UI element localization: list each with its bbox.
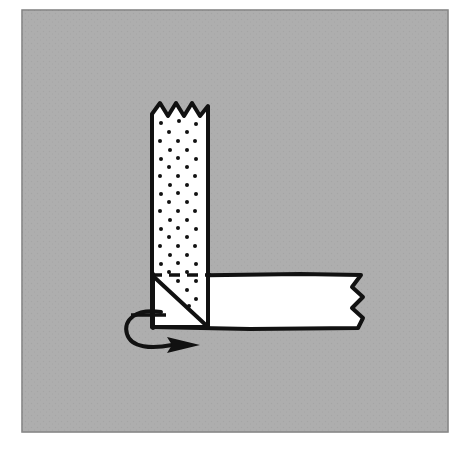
paper-fold-illustration xyxy=(0,0,473,449)
pattern-dot xyxy=(176,139,180,143)
pattern-dot xyxy=(176,156,180,160)
pattern-dot xyxy=(176,174,180,178)
pattern-dot xyxy=(176,226,180,230)
pattern-dot xyxy=(167,235,171,239)
vertical-dotted-strip xyxy=(152,103,208,327)
pattern-dot xyxy=(159,192,163,196)
pattern-dot xyxy=(167,200,171,204)
pattern-dot xyxy=(185,183,189,187)
pattern-dot xyxy=(158,209,162,213)
panel-grain xyxy=(22,10,448,432)
pattern-dot xyxy=(194,262,198,266)
pattern-dot xyxy=(158,244,162,248)
pattern-dot xyxy=(159,227,163,231)
pattern-dot xyxy=(176,209,180,213)
pattern-dot xyxy=(194,297,198,301)
pattern-dot xyxy=(177,119,181,123)
pattern-dot xyxy=(193,244,197,248)
pattern-dot xyxy=(158,174,162,178)
pattern-dot xyxy=(176,191,180,195)
pattern-dot xyxy=(176,244,180,248)
pattern-dot xyxy=(168,183,172,187)
pattern-dot xyxy=(159,157,163,161)
pattern-dot xyxy=(185,218,189,222)
pattern-dot xyxy=(185,165,189,169)
vertical-strip-shape xyxy=(152,103,208,327)
pattern-dot xyxy=(193,139,197,143)
pattern-dot xyxy=(185,130,189,134)
pattern-dot xyxy=(185,253,189,257)
pattern-dot xyxy=(168,148,172,152)
pattern-dot xyxy=(159,262,163,266)
pattern-dot xyxy=(185,148,189,152)
pattern-dot xyxy=(185,288,189,292)
pattern-dot xyxy=(194,157,198,161)
pattern-dot xyxy=(193,174,197,178)
pattern-dot xyxy=(159,121,163,125)
pattern-dot xyxy=(176,279,180,283)
pattern-dot xyxy=(185,235,189,239)
pattern-dot xyxy=(176,261,180,265)
pattern-dot xyxy=(167,130,171,134)
figure-root: Paper strip fold step diagram Dotted ver… xyxy=(0,0,473,449)
pattern-dot xyxy=(168,218,172,222)
pattern-dot xyxy=(194,227,198,231)
pattern-dot xyxy=(194,279,198,283)
pattern-dot xyxy=(194,192,198,196)
pattern-dot xyxy=(193,209,197,213)
pattern-dot xyxy=(168,253,172,257)
pattern-dot xyxy=(194,122,198,126)
pattern-dot xyxy=(167,165,171,169)
pattern-dot xyxy=(158,139,162,143)
pattern-dot xyxy=(185,200,189,204)
